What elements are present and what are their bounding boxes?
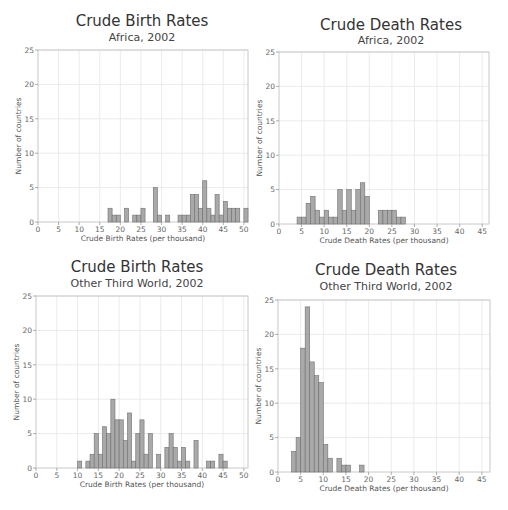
x-tick-label: 0 xyxy=(36,225,41,234)
x-tick-label: 40 xyxy=(455,227,465,236)
y-axis-label: Number of countries xyxy=(255,99,264,176)
histogram-bar xyxy=(203,181,207,222)
x-tick-label: 30 xyxy=(156,471,166,480)
histogram-bar xyxy=(401,217,406,224)
x-tick-label: 25 xyxy=(135,471,145,480)
histogram-bar xyxy=(194,194,198,222)
histogram-bar xyxy=(311,196,316,224)
x-tick-label: 35 xyxy=(177,225,187,234)
y-tick-label: 20 xyxy=(24,80,34,89)
y-tick-label: 20 xyxy=(265,82,275,91)
x-tick-label: 30 xyxy=(409,475,419,484)
x-axis-label: Crude Death Rates (per thousand) xyxy=(319,484,448,493)
x-tick-label: 5 xyxy=(299,227,304,236)
x-axis-label: Crude Birth Rates (per thousand) xyxy=(80,480,205,489)
x-tick-label: 10 xyxy=(319,227,329,236)
y-tick-label: 15 xyxy=(265,117,275,126)
x-tick-label: 40 xyxy=(198,471,208,480)
histogram-bar xyxy=(323,444,328,472)
histogram-bar xyxy=(86,461,90,468)
histogram-canvas: 051015202505101520253035404550Crude Birt… xyxy=(0,0,508,510)
histogram-bar xyxy=(153,188,157,222)
x-tick-label: 35 xyxy=(177,471,187,480)
histogram-bar xyxy=(360,465,365,472)
y-axis-label: Number of countries xyxy=(12,343,21,420)
x-tick-label: 50 xyxy=(239,225,249,234)
histogram-bar xyxy=(108,208,112,222)
y-axis-label: Number of countries xyxy=(14,97,23,174)
histogram-bar xyxy=(341,465,346,472)
x-tick-label: 40 xyxy=(198,225,208,234)
chart-3: 0510152025051015202530354045Crude Death … xyxy=(254,296,490,493)
histogram-bar xyxy=(211,215,215,222)
x-tick-label: 20 xyxy=(114,471,124,480)
histogram-bar xyxy=(383,210,388,224)
histogram-bar xyxy=(133,215,137,222)
histogram-bar xyxy=(320,217,325,224)
x-tick-label: 0 xyxy=(276,475,281,484)
x-tick-label: 0 xyxy=(277,227,282,236)
histogram-bar xyxy=(124,208,128,222)
y-tick-label: 5 xyxy=(27,429,32,438)
y-tick-label: 25 xyxy=(24,46,34,55)
histogram-bar xyxy=(360,183,365,224)
histogram-bar xyxy=(296,438,301,472)
y-tick-label: 0 xyxy=(269,468,274,477)
histogram-bar xyxy=(178,215,182,222)
histogram-bar xyxy=(211,461,215,468)
x-tick-label: 50 xyxy=(239,471,249,480)
x-tick-label: 10 xyxy=(73,471,83,480)
x-tick-label: 20 xyxy=(364,475,374,484)
y-tick-label: 20 xyxy=(264,330,274,339)
histogram-bar xyxy=(136,434,140,468)
histogram-bar xyxy=(94,434,98,468)
histogram-bar xyxy=(182,215,186,222)
y-tick-label: 15 xyxy=(264,365,274,374)
x-tick-label: 35 xyxy=(432,227,442,236)
histogram-bar xyxy=(232,208,236,222)
x-axis-label: Crude Death Rates (per thousand) xyxy=(319,236,448,245)
histogram-bar xyxy=(116,215,120,222)
histogram-bar xyxy=(215,194,219,222)
y-tick-label: 5 xyxy=(270,185,275,194)
histogram-bar xyxy=(315,210,320,224)
y-tick-label: 20 xyxy=(22,326,32,335)
histogram-bar xyxy=(328,458,333,472)
chart-1: 0510152025051015202530354045Crude Death … xyxy=(255,48,489,245)
histogram-bar xyxy=(112,215,116,222)
histogram-bar xyxy=(223,461,227,468)
x-tick-label: 5 xyxy=(54,471,59,480)
y-tick-label: 0 xyxy=(270,220,275,229)
histogram-bar xyxy=(169,434,173,468)
histogram-bar xyxy=(206,461,210,468)
x-tick-label: 40 xyxy=(454,475,464,484)
histogram-bar xyxy=(90,454,94,468)
histogram-bar xyxy=(387,210,392,224)
histogram-bar xyxy=(244,208,248,222)
y-tick-label: 5 xyxy=(269,433,274,442)
x-tick-label: 10 xyxy=(74,225,84,234)
histogram-bar xyxy=(186,461,190,468)
x-tick-label: 30 xyxy=(157,225,167,234)
x-tick-label: 45 xyxy=(218,471,228,480)
histogram-bar xyxy=(236,208,240,222)
histogram-bar xyxy=(342,210,347,224)
x-tick-label: 25 xyxy=(387,227,397,236)
y-tick-label: 15 xyxy=(22,361,32,370)
histogram-bar xyxy=(137,215,141,222)
y-tick-label: 10 xyxy=(265,151,275,160)
y-axis-label: Number of countries xyxy=(254,347,263,424)
y-tick-label: 0 xyxy=(27,464,32,473)
histogram-bar xyxy=(365,196,370,224)
y-tick-label: 25 xyxy=(265,48,275,57)
histogram-bar xyxy=(190,194,194,222)
histogram-bar xyxy=(148,434,152,468)
y-tick-label: 25 xyxy=(264,296,274,305)
histogram-bar xyxy=(319,383,324,472)
histogram-bar xyxy=(219,454,223,468)
x-tick-label: 45 xyxy=(477,475,487,484)
histogram-bar xyxy=(78,461,82,468)
histogram-bar xyxy=(392,210,397,224)
histogram-bar xyxy=(173,447,177,468)
histogram-bar xyxy=(127,413,131,468)
